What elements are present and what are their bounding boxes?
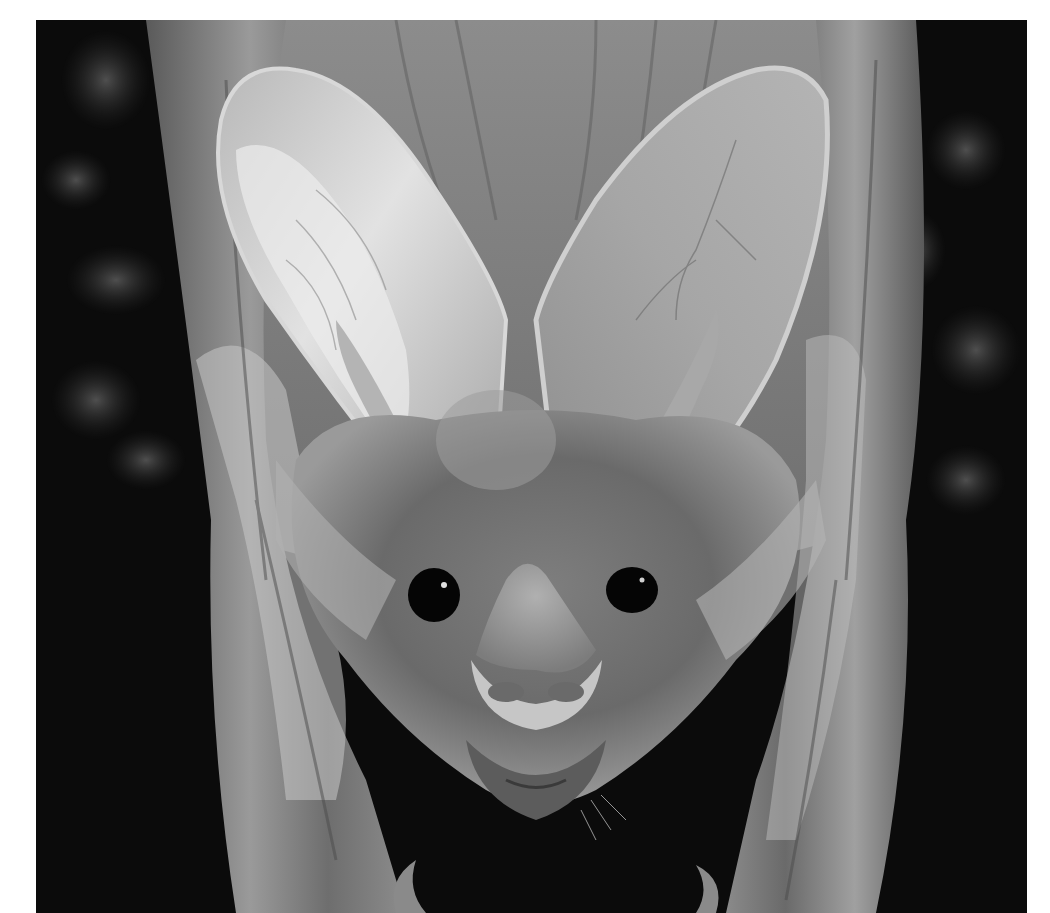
left-eye-highlight bbox=[441, 582, 447, 588]
forehead-fur bbox=[436, 390, 556, 490]
bat-illustration bbox=[36, 20, 1027, 913]
left-nostril bbox=[488, 682, 524, 702]
bat-photograph: Grayscale close-up portrait of a big-ear… bbox=[36, 20, 1027, 913]
left-eye bbox=[408, 568, 460, 622]
right-nostril bbox=[548, 682, 584, 702]
right-eye bbox=[606, 567, 658, 613]
right-eye-highlight bbox=[640, 578, 645, 583]
